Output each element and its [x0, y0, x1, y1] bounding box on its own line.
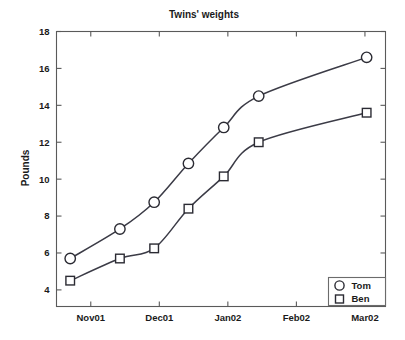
y-tick-label: 10	[39, 174, 50, 185]
series-tom	[65, 52, 372, 264]
legend-label-tom: Tom	[352, 280, 371, 291]
legend-marker-tom	[335, 281, 344, 290]
y-tick-label: 18	[39, 26, 50, 37]
figure-canvas: Twins' weights Pounds 4681012141618 Nov0…	[0, 0, 405, 340]
y-tick-label: 4	[44, 284, 50, 295]
data-point-ben	[116, 254, 125, 263]
data-point-ben	[66, 276, 75, 285]
series-line-ben	[70, 113, 366, 281]
data-point-tom	[361, 52, 371, 62]
y-tick-label: 8	[44, 210, 49, 221]
legend-label-ben: Ben	[352, 293, 370, 304]
y-tick-label: 16	[39, 63, 50, 74]
data-point-tom	[254, 91, 264, 101]
y-tick-label: 12	[39, 137, 50, 148]
x-tick-label: Feb02	[283, 312, 310, 323]
x-tick-label: Nov01	[77, 312, 106, 323]
data-point-ben	[254, 138, 263, 147]
x-tick-label: Dec01	[145, 312, 174, 323]
chart-title: Twins' weights	[169, 9, 239, 20]
y-tick-label: 14	[39, 100, 50, 111]
data-point-tom	[149, 197, 159, 207]
data-point-tom	[65, 253, 75, 263]
y-axis-title: Pounds	[20, 149, 31, 186]
y-axis-ticks: 4681012141618	[39, 26, 386, 295]
data-point-ben	[184, 204, 193, 213]
chart-legend[interactable]: TomBen	[329, 278, 386, 306]
data-point-ben	[150, 244, 159, 253]
x-tick-label: Mar02	[351, 312, 378, 323]
data-point-ben	[219, 172, 228, 181]
y-tick-label: 6	[44, 247, 49, 258]
data-series-layer	[65, 52, 372, 285]
data-point-tom	[219, 122, 229, 132]
data-point-tom	[183, 158, 193, 168]
x-tick-label: Jan02	[214, 312, 241, 323]
legend-marker-ben	[336, 295, 344, 303]
series-ben	[66, 108, 371, 285]
line-chart: Twins' weights Pounds 4681012141618 Nov0…	[0, 0, 405, 340]
data-point-tom	[115, 224, 125, 234]
data-point-ben	[362, 108, 371, 117]
